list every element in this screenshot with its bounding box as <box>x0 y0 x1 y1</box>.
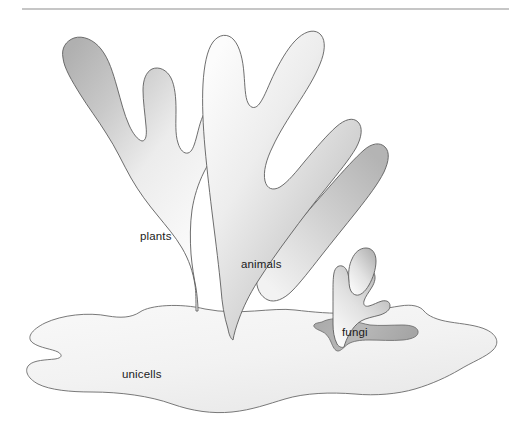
tree-of-life-diagram: unicells plants animals fungi <box>0 0 523 438</box>
group-plants: plants <box>63 37 225 311</box>
fungi-label: fungi <box>342 326 368 338</box>
unicells-blob <box>27 305 497 412</box>
figure-root: unicells plants animals fungi <box>0 0 523 438</box>
group-fungi: fungi <box>314 248 418 351</box>
group-unicells: unicells <box>27 305 497 412</box>
fungi-upper-lobe <box>349 248 376 295</box>
plants-branch <box>63 37 225 311</box>
unicells-label: unicells <box>122 368 162 380</box>
plants-label: plants <box>140 230 172 242</box>
animals-label: animals <box>241 258 282 270</box>
